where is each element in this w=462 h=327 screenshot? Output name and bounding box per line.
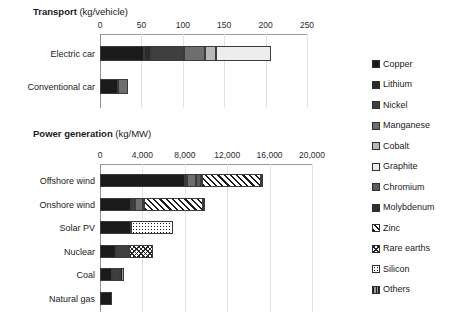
bar-segment-copper [100,292,112,305]
legend-item-cobalt[interactable]: Cobalt [372,136,462,157]
x-tick-label: 20,000 [299,150,325,160]
legend-item-others[interactable]: Others [372,280,462,301]
x-tick-label: 50 [137,20,146,30]
legend-item-rare-earths[interactable]: Rare earths [372,239,462,260]
bar-segment-rare-earths [129,245,152,258]
legend-label: Cobalt [383,142,409,151]
x-axis-tick-labels-transport: 050100150200250 [100,20,307,32]
bar-segment-nickel [112,268,120,281]
legend-swatch-zinc-icon [372,224,380,232]
x-axis-line-transport [100,34,307,35]
legend-item-silicon[interactable]: Silicon [372,259,462,280]
bar-segment-rare-earths [261,174,264,187]
category-label: Coal [76,271,95,280]
legend-label: Zinc [383,224,400,233]
gridline [307,34,308,108]
category-label: Natural gas [49,295,95,304]
bar-segment-silicon [131,221,173,234]
legend-swatch-others-icon [372,286,380,294]
category-label: Conventional car [27,83,95,92]
bar-segment-manganese [135,198,143,211]
legend-label: Copper [383,60,413,69]
legend-swatch-rare-earths-icon [372,245,380,253]
legend-label: Lithium [383,80,412,89]
bar-segment-rare-earths [203,198,205,211]
legend-item-copper[interactable]: Copper [372,54,462,75]
panel-power-title: Power generation (kg/MW) [33,128,151,139]
legend-label: Manganese [383,121,430,130]
legend-swatch-nickel-icon [372,101,380,109]
bar-segment-manganese [184,46,204,61]
legend-label: Chromium [383,183,425,192]
category-label: Nuclear [64,248,95,257]
panel-power-title-main: Power generation [33,128,113,139]
legend-swatch-molybdenum-icon [372,204,380,212]
legend-item-manganese[interactable]: Manganese [372,116,462,137]
bar-row-offshore-wind[interactable]: Offshore wind [100,174,312,187]
bar-row-electric-car[interactable]: Electric car [100,46,307,61]
category-label: Electric car [50,50,95,59]
legend-swatch-chromium-icon [372,183,380,191]
legend-item-zinc[interactable]: Zinc [372,218,462,239]
bar-segment-nickel [116,245,130,258]
legend: CopperLithiumNickelManganeseCobaltGraphi… [372,54,462,300]
x-tick-label: 4,000 [132,150,153,160]
x-axis-tick-labels-power: 04,0008,00012,00016,00020,000 [100,150,312,162]
bar-segment-manganese [187,174,195,187]
bar-row-solar-pv[interactable]: Solar PV [100,221,312,234]
legend-label: Others [383,285,410,294]
legend-swatch-manganese-icon [372,122,380,130]
bar-row-conventional-car[interactable]: Conventional car [100,79,307,94]
bar-segment-graphite [216,46,271,61]
bar-segment-manganese [118,79,127,94]
x-tick-label: 0 [98,150,103,160]
panel-transport-title-main: Transport [33,6,77,17]
bar-row-natural-gas[interactable]: Natural gas [100,292,312,305]
x-tick-label: 250 [300,20,314,30]
legend-label: Molybdenum [383,203,435,212]
legend-item-graphite[interactable]: Graphite [372,157,462,178]
category-label: Offshore wind [40,177,95,186]
panel-power-generation: Power generation (kg/MW) 04,0008,00012,0… [0,128,345,324]
legend-label: Nickel [383,101,408,110]
legend-swatch-graphite-icon [372,163,380,171]
category-label: Solar PV [59,224,95,233]
bar-segment-cobalt [205,46,216,61]
x-tick-label: 100 [176,20,190,30]
bar-segment-copper [100,198,131,211]
panel-transport-title: Transport (kg/vehicle) [33,6,128,17]
bar-segment-copper [100,46,144,61]
legend-item-molybdenum[interactable]: Molybdenum [372,198,462,219]
x-tick-label: 200 [259,20,273,30]
x-axis-line-power [100,164,312,165]
x-tick-label: 12,000 [214,150,240,160]
x-tick-label: 8,000 [174,150,195,160]
bar-row-onshore-wind[interactable]: Onshore wind [100,198,312,211]
bar-row-coal[interactable]: Coal [100,268,312,281]
bar-segment-copper [100,79,118,94]
legend-item-nickel[interactable]: Nickel [372,95,462,116]
bar-segment-lithium [144,46,151,61]
legend-swatch-lithium-icon [372,81,380,89]
bar-segment-copper [100,268,112,281]
legend-swatch-silicon-icon [372,265,380,273]
gridline [312,164,313,312]
x-tick-label: 16,000 [257,150,283,160]
bar-segment-copper [100,174,185,187]
legend-item-chromium[interactable]: Chromium [372,177,462,198]
panel-power-title-unit: (kg/MW) [115,128,151,139]
plot-area-power: 04,0008,00012,00016,00020,000 Offshore w… [100,164,312,312]
bar-segment-copper [100,221,131,234]
chart-canvas: Transport (kg/vehicle) 050100150200250 E… [0,0,462,327]
legend-swatch-cobalt-icon [372,142,380,150]
x-tick-label: 150 [217,20,231,30]
legend-swatch-copper-icon [372,60,380,68]
bar-row-nuclear[interactable]: Nuclear [100,245,312,258]
legend-item-lithium[interactable]: Lithium [372,75,462,96]
category-label: Onshore wind [39,201,95,210]
bar-segment-nickel [151,46,184,61]
legend-label: Graphite [383,162,418,171]
x-tick-label: 0 [98,20,103,30]
legend-label: Rare earths [383,244,430,253]
bar-segment-copper [100,245,116,258]
